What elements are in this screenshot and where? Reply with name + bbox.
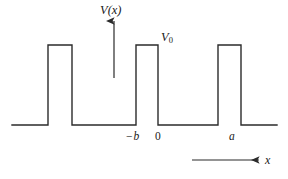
tick-label-minus-b: −b (126, 131, 139, 143)
potential-curve (12, 45, 277, 125)
barrier-height-subscript: 0 (169, 35, 173, 45)
tick-label-zero: 0 (155, 131, 161, 143)
tick-label-zero-text: 0 (155, 130, 161, 142)
barrier-height-symbol: V (161, 30, 169, 44)
potential-diagram-figure: V(x) V0 −b 0 a x (0, 0, 288, 179)
tick-label-minus-b-text: b (134, 130, 140, 142)
tick-label-a-text: a (229, 130, 235, 142)
v-axis-label: V(x) (100, 4, 122, 17)
barrier-height-label: V0 (161, 31, 173, 44)
v-axis-label-text: V(x) (100, 3, 122, 17)
x-axis-label-text: x (265, 153, 270, 167)
minus-sign: − (126, 130, 134, 142)
x-axis-label: x (265, 154, 270, 166)
tick-label-a: a (229, 131, 235, 143)
potential-plot-svg (0, 0, 288, 179)
